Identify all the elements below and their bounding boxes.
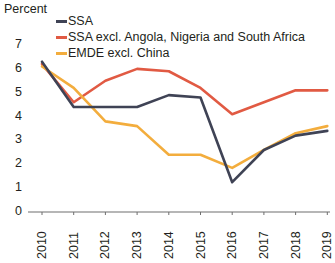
x-axis-tick-label: 2014 [163,231,176,259]
x-axis-tick-label: 2010 [36,231,49,259]
x-axis-tick-label: 2015 [195,231,208,259]
y-axis-tick-label: 6 [4,62,22,75]
x-axis-tick-label: 2016 [226,231,239,259]
x-axis-tick-label: 2017 [258,231,271,259]
plot-svg [0,0,335,263]
line-chart: Percent SSA SSA excl. Angola, Nigeria an… [0,0,335,263]
x-axis-tick-label: 2013 [131,231,144,259]
y-axis-tick-label: 0 [4,205,22,218]
y-axis-tick-label: 3 [4,133,22,146]
y-axis-tick-label: 2 [4,157,22,170]
plot-area [0,0,335,263]
x-axis-tick-label: 2012 [99,231,112,259]
y-axis-tick-label: 4 [4,110,22,123]
x-axis-tick-label: 2018 [290,231,303,259]
x-axis-tick-label: 2019 [321,231,334,259]
y-axis-tick-label: 5 [4,86,22,99]
x-axis-tick-label: 2011 [68,232,81,259]
y-axis-tick-label: 1 [4,181,22,194]
series-line [42,66,327,167]
y-axis-tick-label: 7 [4,38,22,51]
